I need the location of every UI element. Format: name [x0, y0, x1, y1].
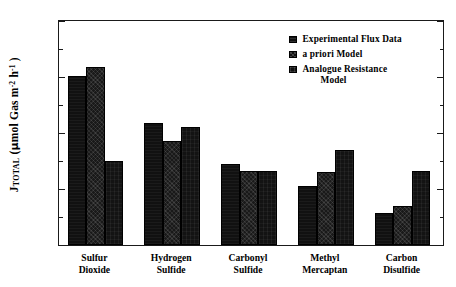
- y-axis-tick-major: [59, 77, 65, 78]
- y-axis-title-units-close: ): [9, 57, 21, 64]
- bar: [86, 67, 105, 245]
- y-axis-tick-minor-right: [440, 49, 444, 50]
- y-axis-title-exponent-2: -1: [8, 65, 17, 72]
- y-axis-tick-major-right: [437, 245, 443, 246]
- y-axis-title-subscript: TOTAL: [13, 158, 22, 187]
- bar: [163, 141, 182, 245]
- y-axis-title-units-2: h: [9, 71, 21, 81]
- legend-swatch-icon: [289, 36, 297, 44]
- y-axis-tick-minor-right: [440, 105, 444, 106]
- y-axis-tick-minor: [59, 217, 63, 218]
- legend-swatch-icon: [289, 51, 297, 59]
- bar-chart-figure: JTOTAL (µmol Gas m-2 h-1 ) 020406080 Sul…: [0, 0, 456, 287]
- y-axis-title: JTOTAL (µmol Gas m-2 h-1 ): [8, 57, 22, 192]
- y-axis-tick-minor-right: [440, 217, 444, 218]
- y-axis-title-units-1: mol Gas m: [9, 88, 21, 143]
- bar: [68, 76, 87, 245]
- legend-label: Analogue ResistanceModel: [303, 64, 388, 86]
- bar-group: [221, 21, 277, 245]
- chart-legend: Experimental Flux Dataa priori ModelAnal…: [289, 34, 439, 90]
- x-axis-category-label-line: Disulfide: [357, 264, 447, 276]
- legend-label: Experimental Flux Data: [303, 34, 402, 45]
- y-axis-tick-major-right: [437, 21, 443, 22]
- y-axis-title-symbol: J: [9, 187, 21, 193]
- y-axis-tick-minor: [59, 49, 63, 50]
- y-axis-tick-minor-right: [440, 161, 444, 162]
- y-axis-title-mu: µ: [9, 142, 22, 150]
- legend-label-line: Model: [321, 75, 388, 86]
- y-axis-tick-major: [59, 21, 65, 22]
- y-axis-title-exponent-1: -2: [8, 81, 17, 88]
- legend-item[interactable]: Experimental Flux Data: [289, 34, 439, 45]
- bar-group: [144, 21, 200, 245]
- bar: [258, 171, 277, 245]
- y-axis-tick-major: [59, 245, 65, 246]
- legend-swatch-icon: [289, 66, 297, 74]
- bar: [105, 161, 124, 245]
- bar: [221, 164, 240, 245]
- legend-label: a priori Model: [303, 49, 363, 60]
- bar: [240, 171, 259, 245]
- y-axis-tick-major: [59, 189, 65, 190]
- bar-group: [68, 21, 124, 245]
- x-axis-category-label: CarbonDisulfide: [357, 252, 447, 275]
- legend-label-line: Analogue Resistance: [303, 64, 388, 75]
- bar: [181, 127, 200, 245]
- y-axis-tick-major-right: [437, 133, 443, 134]
- y-axis-title-units-open: (: [9, 151, 21, 158]
- bar: [412, 171, 431, 245]
- bar: [298, 186, 317, 245]
- x-axis-category-label-line: Carbon: [357, 252, 447, 264]
- legend-item[interactable]: a priori Model: [289, 49, 439, 60]
- bar: [335, 150, 354, 245]
- y-axis-tick-major: [59, 133, 65, 134]
- bar: [393, 206, 412, 245]
- y-axis-tick-minor: [59, 105, 63, 106]
- y-axis-title-container: JTOTAL (µmol Gas m-2 h-1 ): [0, 0, 30, 250]
- y-axis-tick-minor: [59, 161, 63, 162]
- legend-item[interactable]: Analogue ResistanceModel: [289, 64, 439, 86]
- y-axis-tick-major-right: [437, 189, 443, 190]
- bar: [317, 172, 336, 245]
- bar: [144, 123, 163, 245]
- bar: [375, 213, 394, 245]
